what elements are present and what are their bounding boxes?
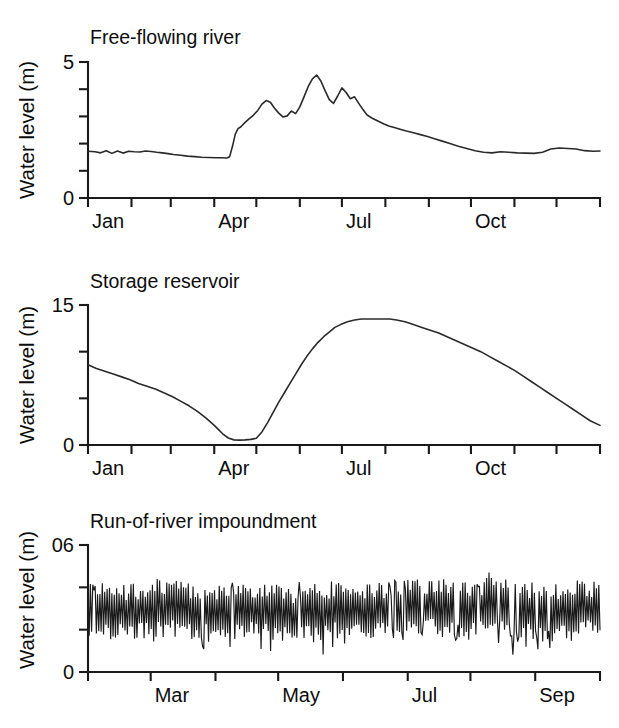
y-tick-label: 0: [63, 434, 74, 456]
x-tick-label: Jul: [346, 210, 372, 232]
x-tick-label: Apr: [218, 457, 249, 479]
y-axis-title: Water level (m): [15, 306, 38, 444]
x-tick-label: Oct: [475, 210, 507, 232]
panel-free-flowing-river: Free-flowing riverWater level (m)05JanAp…: [0, 0, 619, 250]
y-tick-label: 06: [52, 534, 74, 556]
y-axis-title: Water level (m): [15, 61, 38, 199]
y-tick-label: 0: [63, 187, 74, 209]
y-tick-label: 15: [52, 294, 74, 316]
x-tick-label: Sep: [539, 684, 575, 706]
chart-run-of-river-impoundment: Run-of-river impoundmentWater level (m)0…: [0, 495, 619, 728]
data-series-line: [88, 573, 600, 655]
x-tick-label: May: [282, 684, 320, 706]
chart-storage-reservoir: Storage reservoirWater level (m)015JanAp…: [0, 250, 619, 495]
x-tick-label: Jul: [412, 684, 438, 706]
panel-title: Free-flowing river: [90, 26, 241, 48]
x-tick-label: Oct: [475, 457, 507, 479]
panel-title: Storage reservoir: [90, 270, 240, 292]
x-tick-label: Jan: [92, 457, 124, 479]
y-tick-label: 5: [63, 51, 74, 73]
y-tick-label: 0: [63, 661, 74, 683]
x-tick-label: Mar: [155, 684, 190, 706]
panel-run-of-river-impoundment: Run-of-river impoundmentWater level (m)0…: [0, 495, 619, 728]
x-tick-label: Jan: [92, 210, 124, 232]
y-axis-title: Water level (m): [15, 531, 38, 669]
data-series-line: [88, 75, 600, 158]
x-tick-label: Jul: [346, 457, 372, 479]
panel-storage-reservoir: Storage reservoirWater level (m)015JanAp…: [0, 250, 619, 495]
panel-title: Run-of-river impoundment: [90, 510, 317, 532]
water-level-figure: Free-flowing riverWater level (m)05JanAp…: [0, 0, 619, 728]
chart-free-flowing-river: Free-flowing riverWater level (m)05JanAp…: [0, 0, 619, 250]
x-tick-label: Apr: [218, 210, 249, 232]
data-series-line: [88, 319, 600, 440]
